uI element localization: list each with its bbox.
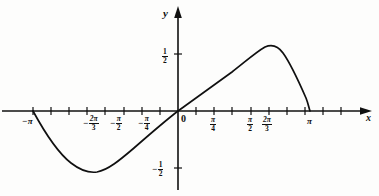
x-tick-label-neg-pi-half: − π 2 bbox=[110, 115, 122, 131]
fraction-denominator: 3 bbox=[262, 125, 272, 133]
fraction-denominator: 2 bbox=[247, 125, 253, 133]
fraction-denominator: 4 bbox=[144, 124, 150, 132]
y-axis-arrowhead bbox=[174, 6, 182, 18]
x-tick-label-pi-quarter: π 4 bbox=[210, 115, 216, 132]
fraction: π 2 bbox=[247, 116, 253, 132]
math-plot-figure: y x 0 −π − 2π 3 − π 2 − π 4 π 4 π bbox=[0, 0, 379, 196]
x-tick-label-neg-pi: −π bbox=[22, 117, 33, 126]
y-tick-label-neg-half: − 1 2 bbox=[152, 161, 163, 177]
fraction-denominator: 3 bbox=[89, 124, 99, 132]
x-tick-label-neg-two-pi-thirds: − 2π 3 bbox=[83, 115, 99, 131]
fraction: π 4 bbox=[210, 116, 216, 132]
x-tick-label-pi-half: π 2 bbox=[247, 115, 253, 132]
axes-group bbox=[2, 6, 372, 190]
fraction: 2π 3 bbox=[89, 115, 99, 131]
fraction-denominator: 4 bbox=[210, 125, 216, 133]
x-tick-label-neg-pi-quarter: − π 4 bbox=[138, 115, 150, 131]
fraction: 1 2 bbox=[162, 48, 168, 64]
fraction-denominator: 2 bbox=[116, 124, 122, 132]
x-tick-label-two-pi-thirds: 2π 3 bbox=[262, 115, 272, 132]
fraction: π 4 bbox=[144, 115, 150, 131]
y-axis-label: y bbox=[163, 8, 168, 19]
y-tick-label-half: 1 2 bbox=[162, 47, 168, 64]
pi-symbol: π bbox=[28, 116, 33, 126]
fraction: 2π 3 bbox=[262, 116, 272, 132]
fraction-denominator: 2 bbox=[162, 57, 168, 65]
fraction: 1 2 bbox=[158, 161, 164, 177]
x-axis-label: x bbox=[366, 113, 371, 123]
x-tick-label-pi: π bbox=[307, 117, 312, 126]
fraction-denominator: 2 bbox=[158, 170, 164, 178]
plot-canvas bbox=[0, 0, 379, 196]
fraction: π 2 bbox=[116, 115, 122, 131]
origin-label: 0 bbox=[181, 114, 186, 124]
